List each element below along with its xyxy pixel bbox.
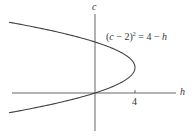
- c-axis-label: c: [92, 2, 96, 12]
- tick-label-4: 4: [132, 97, 137, 107]
- diagram-svg: [0, 0, 196, 137]
- diagram-canvas: c h 4 (c − 2)2 = 4 − h: [0, 0, 196, 137]
- equation-label: (c − 2)2 = 4 − h: [106, 31, 167, 42]
- eq-var-h: h: [162, 31, 167, 42]
- h-axis-label: h: [180, 87, 185, 97]
- eq-rhs: = 4 −: [136, 31, 162, 42]
- eq-minus-two: − 2): [114, 31, 133, 42]
